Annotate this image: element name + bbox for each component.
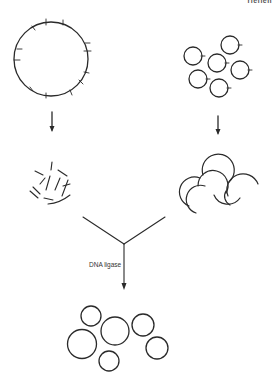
dna-recombination-diagram [0, 0, 274, 386]
opened-plasmid-arcs [179, 154, 258, 213]
small-plasmids [184, 36, 252, 97]
down-arrow-right [216, 116, 221, 135]
linear-fragments [30, 162, 70, 204]
y-junction [83, 217, 165, 290]
recombinant-circles [68, 306, 169, 371]
down-arrow-left [50, 112, 55, 132]
dna-ligase-label: DNA ligase [89, 261, 121, 268]
large-circular-dna [14, 19, 91, 98]
